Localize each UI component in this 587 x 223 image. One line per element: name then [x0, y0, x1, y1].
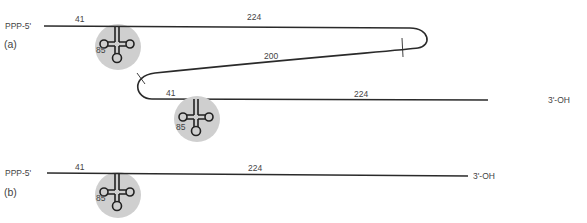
trna-1-length-label: 85	[96, 45, 106, 55]
trna-b-length-label: 85	[96, 193, 106, 203]
segment-label-41-b: 41	[75, 162, 85, 172]
segment-label-224-b: 224	[248, 163, 262, 173]
rna-diagram: (a) 85 PPP-5' 41 224 200 41 224 3'-OH 85…	[0, 0, 587, 223]
three-prime-label-b: 3'-OH	[473, 171, 495, 181]
trna-2-length-label: 85	[176, 122, 186, 132]
segment-label-41-bottom: 41	[166, 88, 176, 98]
segment-label-224-top: 224	[247, 12, 261, 22]
panel-b-label: (b)	[4, 186, 17, 198]
panel-b: (b) 85 PPP-5' 41 224 3'-OH	[4, 162, 495, 218]
segment-label-41-top: 41	[75, 14, 85, 24]
panel-a: (a) 85 PPP-5' 41 224 200 41 224 3'-OH 85	[4, 12, 570, 142]
three-prime-label: 3'-OH	[548, 95, 570, 105]
panel-a-label: (a)	[4, 38, 17, 50]
five-prime-label: PPP-5'	[5, 21, 32, 31]
cleavage-site-right-tick	[402, 38, 403, 57]
segment-label-200: 200	[264, 51, 278, 61]
segment-label-224-bottom: 224	[354, 89, 368, 99]
five-prime-label-b: PPP-5'	[5, 168, 32, 178]
